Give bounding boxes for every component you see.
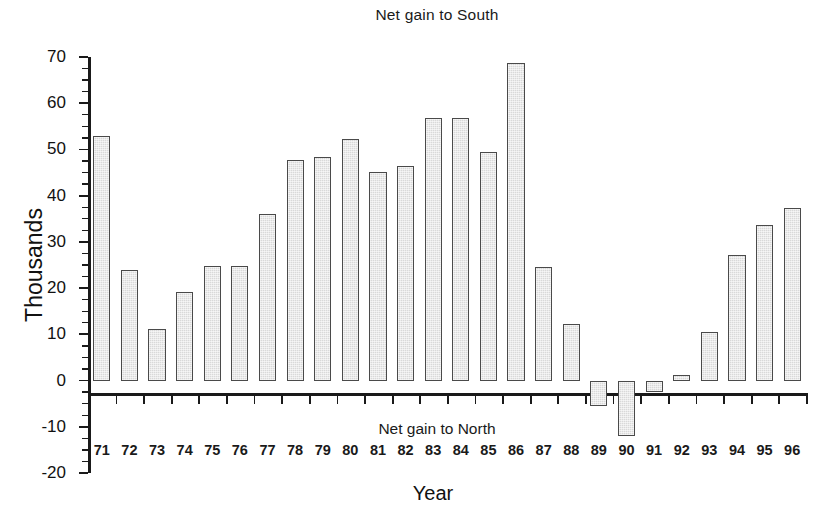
x-category-label: 71	[94, 442, 110, 458]
y-tick-major	[79, 195, 88, 197]
y-tick-minor	[82, 299, 88, 300]
y-tick-label: 40	[47, 186, 66, 206]
y-tick-minor	[82, 218, 88, 219]
x-category-label: 93	[701, 442, 717, 458]
x-tick	[696, 393, 698, 404]
y-axis-line	[88, 57, 91, 473]
bar	[728, 255, 745, 381]
x-category-label: 79	[315, 442, 331, 458]
bar	[673, 375, 690, 381]
x-tick	[613, 393, 615, 404]
x-category-label: 78	[287, 442, 303, 458]
x-tick	[502, 393, 504, 404]
y-tick-minor	[82, 264, 88, 265]
x-tick	[171, 393, 173, 404]
bar	[259, 214, 276, 381]
y-tick-major	[79, 149, 88, 151]
x-tick	[530, 393, 532, 404]
x-category-label: 75	[204, 442, 220, 458]
x-category-label: 82	[397, 442, 413, 458]
y-tick-label: 10	[47, 324, 66, 344]
plot-area: 706050403020100-10-20	[88, 57, 806, 473]
x-tick	[585, 393, 587, 404]
x-tick	[226, 393, 228, 404]
x-tick	[309, 393, 311, 404]
x-tick	[88, 393, 90, 404]
x-tick	[198, 393, 200, 404]
x-tick	[668, 393, 670, 404]
y-tick-minor	[82, 449, 88, 450]
bar	[287, 160, 304, 381]
y-tick-minor	[82, 345, 88, 346]
y-tick-label: 50	[47, 139, 66, 159]
x-tick	[751, 393, 753, 404]
y-tick-major	[79, 333, 88, 335]
bar	[314, 157, 331, 380]
x-tick	[392, 393, 394, 404]
y-tick-major	[79, 472, 88, 474]
y-tick-minor	[82, 68, 88, 69]
y-tick-minor	[82, 253, 88, 254]
y-tick-major	[79, 287, 88, 289]
x-axis-title-text: Year	[413, 482, 453, 504]
x-axis-title: Year	[0, 482, 826, 505]
y-tick-major	[79, 102, 88, 104]
bar	[563, 324, 580, 380]
x-category-label: 86	[508, 442, 524, 458]
y-tick-label: 20	[47, 278, 66, 298]
x-category-label: 85	[480, 442, 496, 458]
bar	[646, 381, 663, 393]
x-tick	[364, 393, 366, 404]
x-category-label: 92	[674, 442, 690, 458]
x-category-label: 94	[729, 442, 745, 458]
chart-title: Net gain to South	[0, 6, 826, 24]
x-tick	[640, 393, 642, 404]
x-tick	[116, 393, 118, 404]
x-category-label: 80	[342, 442, 358, 458]
bar	[204, 266, 221, 381]
bar	[590, 381, 607, 406]
x-category-label: 87	[536, 442, 552, 458]
x-category-label: 77	[259, 442, 275, 458]
y-tick-minor	[82, 276, 88, 277]
y-tick-minor	[82, 79, 88, 80]
y-tick-minor	[82, 207, 88, 208]
y-axis-title-text: Thousands	[21, 208, 48, 322]
x-tick	[447, 393, 449, 404]
x-tick	[475, 393, 477, 404]
bar	[535, 267, 552, 380]
x-tick	[723, 393, 725, 404]
y-tick-minor	[82, 172, 88, 173]
y-tick-minor	[82, 126, 88, 127]
x-category-label: 88	[563, 442, 579, 458]
bar	[784, 208, 801, 380]
y-tick-minor	[82, 137, 88, 138]
bar	[231, 266, 248, 381]
bar	[397, 166, 414, 381]
x-category-label: 96	[784, 442, 800, 458]
bar-chart: Net gain to South Thousands 706050403020…	[0, 0, 826, 518]
x-category-label: 76	[232, 442, 248, 458]
x-category-label: 83	[425, 442, 441, 458]
y-tick-minor	[82, 322, 88, 323]
x-category-label: 74	[177, 442, 193, 458]
x-category-label: 81	[370, 442, 386, 458]
x-category-label: 73	[149, 442, 165, 458]
y-tick-minor	[82, 114, 88, 115]
x-tick	[419, 393, 421, 404]
bar	[425, 118, 442, 381]
y-tick-major	[79, 56, 88, 58]
x-category-label: 95	[756, 442, 772, 458]
bar	[452, 118, 469, 381]
y-tick-minor	[82, 415, 88, 416]
bar	[342, 139, 359, 381]
x-tick	[281, 393, 283, 404]
y-tick-label: 60	[47, 93, 66, 113]
y-tick-label: 0	[57, 371, 66, 391]
y-tick-minor	[82, 183, 88, 184]
x-tick	[557, 393, 559, 404]
bar	[756, 225, 773, 380]
y-tick-label: 30	[47, 232, 66, 252]
chart-title-text: Net gain to South	[375, 6, 498, 23]
y-tick-minor	[82, 230, 88, 231]
